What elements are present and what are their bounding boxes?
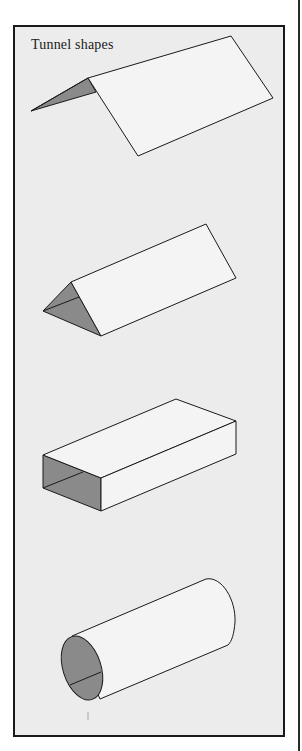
tunnel-shapes-illustration <box>0 0 302 751</box>
flat-ridge-shape <box>31 36 273 156</box>
flat-ridge-face <box>88 36 273 156</box>
cylinder <box>54 579 235 720</box>
triangular-prism-face <box>71 224 236 336</box>
rectangular-box <box>43 399 236 511</box>
triangular-prism <box>43 224 236 336</box>
flat-ridge-shaded-end <box>31 78 96 111</box>
